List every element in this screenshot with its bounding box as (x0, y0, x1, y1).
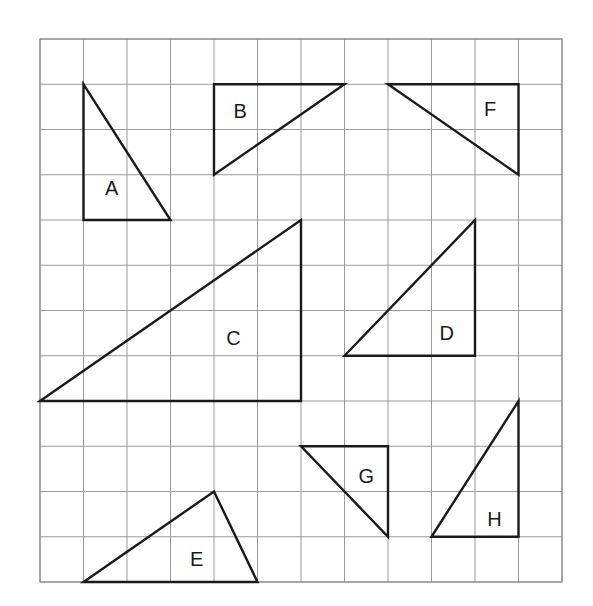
triangle-label: B (233, 100, 246, 122)
triangle-label: D (439, 322, 453, 344)
triangle-label: F (484, 98, 496, 120)
triangle-label: E (190, 548, 203, 570)
triangle-label: H (487, 508, 501, 530)
triangle-label: C (226, 327, 240, 349)
triangles: ABFCDGHE (40, 84, 519, 582)
triangle-label: A (105, 177, 119, 199)
triangle-grid-diagram: ABFCDGHE (0, 0, 593, 606)
triangle-outline (345, 220, 476, 356)
triangle-label: G (358, 465, 374, 487)
triangle-d: D (345, 220, 476, 356)
